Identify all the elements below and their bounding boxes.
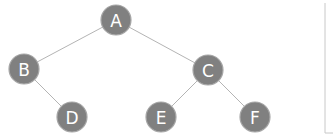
node-label: F: [250, 108, 260, 128]
edge-a-b: [24, 20, 116, 69]
tree-node-a: A: [101, 5, 131, 35]
binary-tree-diagram: ABCDEF: [0, 0, 335, 138]
tree-node-d: D: [57, 102, 87, 132]
tree-node-f: F: [240, 102, 270, 132]
tree-node-e: E: [146, 102, 176, 132]
node-label: B: [18, 60, 30, 80]
tree-node-b: B: [9, 54, 39, 84]
tree-node-c: C: [193, 55, 223, 85]
node-label: E: [156, 108, 167, 128]
edge-a-c: [116, 20, 208, 70]
nodes-layer: ABCDEF: [9, 5, 270, 132]
node-label: C: [202, 61, 214, 81]
node-label: A: [110, 11, 122, 31]
node-label: D: [65, 108, 78, 128]
